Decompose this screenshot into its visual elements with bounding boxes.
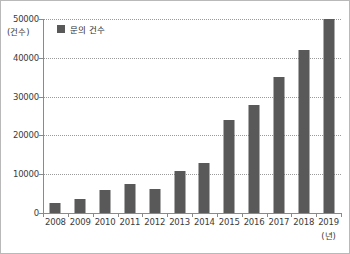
x-axis-tick-label: 2014 xyxy=(192,217,217,227)
x-axis-tick-labels: 2008200920102011201220132014201520162017… xyxy=(43,217,341,251)
y-axis-tick-label: 50000 xyxy=(13,14,39,24)
bar[interactable] xyxy=(249,105,260,213)
bar[interactable] xyxy=(224,120,235,213)
bar-slot xyxy=(142,19,167,213)
bar[interactable] xyxy=(75,199,86,213)
y-axis-tick-labels: 01000020000300004000050000 xyxy=(1,1,39,254)
bar[interactable] xyxy=(174,171,185,213)
y-axis-tick-mark xyxy=(39,97,43,98)
x-axis-tick-mark xyxy=(291,213,292,217)
bar[interactable] xyxy=(323,19,334,213)
bar-slot xyxy=(93,19,118,213)
x-axis-label-slot: 2008 xyxy=(43,217,68,227)
x-axis-label-slot: 2013 xyxy=(167,217,192,227)
y-axis-tick-label: 20000 xyxy=(13,130,39,140)
x-axis-label-slot: 2012 xyxy=(142,217,167,227)
bar-slot xyxy=(316,19,341,213)
bar-slot xyxy=(167,19,192,213)
x-axis-label-slot: 2009 xyxy=(68,217,93,227)
x-axis-tick-mark xyxy=(316,213,317,217)
bar-slot xyxy=(267,19,292,213)
x-axis-tick-label: 2008 xyxy=(43,217,68,227)
x-axis-label-slot: 2014 xyxy=(192,217,217,227)
x-axis-unit-label: (년) xyxy=(316,229,341,241)
x-axis-tick-label: 2017 xyxy=(267,217,292,227)
bar[interactable] xyxy=(273,77,284,213)
bar[interactable] xyxy=(100,190,111,213)
x-axis-label-slot: 2015 xyxy=(217,217,242,227)
x-axis-label-slot: 2011 xyxy=(118,217,143,227)
bar-slot xyxy=(118,19,143,213)
bar[interactable] xyxy=(298,50,309,213)
chart-figure: 01000020000300004000050000 (건수) 20082009… xyxy=(0,0,350,254)
bar-slot xyxy=(43,19,68,213)
y-axis-tick-label: 40000 xyxy=(13,53,39,63)
bar-slot xyxy=(217,19,242,213)
x-axis-tick-label: 2016 xyxy=(242,217,267,227)
x-axis-tick-mark xyxy=(192,213,193,217)
x-axis-tick-mark xyxy=(267,213,268,217)
legend-entry-label: 문의 건수 xyxy=(70,23,105,35)
square-swatch-icon xyxy=(57,25,65,33)
x-axis-tick-mark xyxy=(217,213,218,217)
bar-slot xyxy=(192,19,217,213)
y-axis-tick-mark xyxy=(39,19,43,20)
x-axis-label-slot: 2016 xyxy=(242,217,267,227)
y-axis-tick-mark xyxy=(39,174,43,175)
chart-legend: 문의 건수 xyxy=(57,23,105,35)
x-axis-tick-label: 2011 xyxy=(118,217,143,227)
y-axis-unit-label: (건수) xyxy=(7,25,30,37)
y-axis-tick-mark xyxy=(39,58,43,59)
bar[interactable] xyxy=(149,189,160,213)
y-axis-tick-label: 30000 xyxy=(13,92,39,102)
x-axis-tick-mark xyxy=(242,213,243,217)
x-axis-label-slot: 2018 xyxy=(291,217,316,227)
x-axis-tick-mark xyxy=(341,213,342,217)
x-axis-label-slot: 2010 xyxy=(93,217,118,227)
bar-slot xyxy=(242,19,267,213)
x-axis-label-slot: 2019 xyxy=(316,217,341,227)
x-axis-tick-label: 2013 xyxy=(167,217,192,227)
x-axis-tick-mark xyxy=(167,213,168,217)
x-axis-tick-label: 2010 xyxy=(93,217,118,227)
x-axis-tick-label: 2009 xyxy=(68,217,93,227)
bar[interactable] xyxy=(124,184,135,213)
x-axis-label-slot: 2017 xyxy=(267,217,292,227)
x-axis-tick-mark xyxy=(118,213,119,217)
x-axis-tick-mark xyxy=(43,213,44,217)
x-axis-tick-label: 2012 xyxy=(142,217,167,227)
x-axis-tick-label: 2019 xyxy=(316,217,341,227)
bar[interactable] xyxy=(50,203,61,213)
y-axis-tick-mark xyxy=(39,135,43,136)
x-axis-tick-mark xyxy=(68,213,69,217)
x-axis-tick-mark xyxy=(142,213,143,217)
x-axis-tick-mark xyxy=(93,213,94,217)
bar-slot xyxy=(68,19,93,213)
bar-series-group xyxy=(43,19,341,213)
bar-slot xyxy=(291,19,316,213)
x-axis-tick-label: 2018 xyxy=(291,217,316,227)
y-axis-tick-label: 10000 xyxy=(13,169,39,179)
bar[interactable] xyxy=(199,163,210,213)
x-axis-tick-label: 2015 xyxy=(217,217,242,227)
